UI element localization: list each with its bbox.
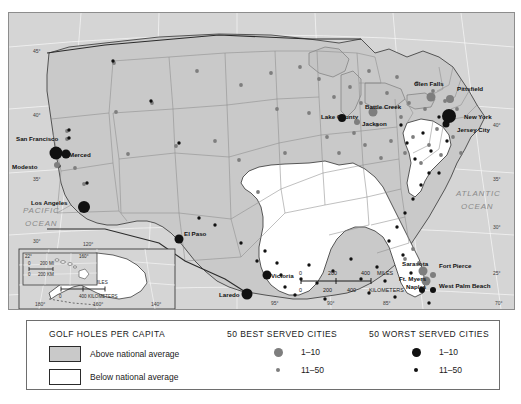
scale-miles-200: 200 <box>328 270 337 276</box>
minor-dot-worst <box>239 241 242 244</box>
city-dot-glen-falls[interactable] <box>427 93 436 102</box>
city-dot-pittsfield[interactable] <box>446 95 454 103</box>
city-label-el-paso: El Paso <box>184 230 207 237</box>
minor-dot-worst <box>401 253 404 256</box>
city-label-jersey-city: Jersey City <box>457 126 491 133</box>
lat-tick-right-0: 40° <box>493 122 501 128</box>
minor-dot-worst <box>283 285 286 288</box>
minor-dot-worst <box>387 239 390 242</box>
minor-dot-best <box>256 190 260 194</box>
legend-shading-column: GOLF HOLES PER CAPITA Above national ave… <box>49 329 179 385</box>
city-label-merced: Merced <box>69 151 91 158</box>
city-dot-modesto[interactable] <box>54 162 60 168</box>
minor-dot-best <box>269 71 273 75</box>
legend-worst-dot-small-cell <box>403 368 429 372</box>
minor-dot-worst <box>149 99 152 102</box>
city-dot-west-palm-beach[interactable] <box>430 287 436 293</box>
legend-worst-item-1-10[interactable]: 1–10 <box>403 347 489 357</box>
hawaii-inset[interactable]: 0 200 MI 0 200 KM 22° 160° <box>23 253 97 285</box>
city-dot-los-angeles[interactable] <box>78 201 90 213</box>
legend-label-above: Above national average <box>90 349 179 359</box>
lon-tick-inset-2: 140° <box>151 301 161 307</box>
minor-dot-worst <box>437 115 440 118</box>
minor-dot-best <box>348 85 352 89</box>
city-dot-san-francisco[interactable] <box>50 147 63 160</box>
minor-dot-best <box>283 151 287 155</box>
lat-tick-right-2: 30° <box>493 224 501 230</box>
city-label-fort-pierce: Fort Pierce <box>439 262 472 269</box>
lon-tick-main-2: 85° <box>383 300 391 306</box>
minor-dot-worst <box>427 301 430 304</box>
legend-label-below: Below national average <box>90 372 178 382</box>
minor-dot-worst <box>177 141 180 144</box>
city-dot-fort-pierce[interactable] <box>430 272 436 278</box>
legend-best-item-11-50[interactable]: 11–50 <box>265 365 337 375</box>
scale-miles-400: 400 <box>361 270 370 276</box>
screenshot-root: San FranciscoMercedModestoLos AngelesEl … <box>0 0 521 404</box>
minor-dot-best <box>455 107 459 111</box>
minor-dot-best <box>237 158 241 162</box>
worst-small-dot-icon <box>414 368 418 372</box>
minor-dot-worst <box>213 223 216 226</box>
minor-dot-worst <box>307 263 310 266</box>
lon-tick-main-1: 90° <box>327 300 335 306</box>
minor-dot-best <box>213 139 217 143</box>
minor-dot-worst <box>359 277 362 280</box>
city-dot-laredo[interactable] <box>242 289 253 300</box>
minor-dot-worst <box>383 279 386 282</box>
hawaii-scale-miles: 200 MI <box>40 261 54 266</box>
scale-km-0: 0 <box>299 287 302 293</box>
city-dot-jersey-city[interactable] <box>443 121 450 128</box>
legend-worst-item-11-50[interactable]: 11–50 <box>403 365 489 375</box>
minor-dot-worst <box>275 261 278 264</box>
minor-dot-best <box>317 77 321 81</box>
minor-dot-best <box>379 156 383 160</box>
minor-dot-best <box>298 65 302 69</box>
minor-dot-best <box>395 75 399 79</box>
minor-dot-best <box>126 152 130 156</box>
minor-dot-best <box>435 127 439 131</box>
minor-dot-worst <box>315 281 318 284</box>
scale-km-unit: KILOMETERS <box>369 287 404 293</box>
legend-item-above[interactable]: Above national average <box>49 346 179 362</box>
city-label-victoria: Victoria <box>271 272 294 279</box>
minor-dot-best <box>337 151 341 155</box>
city-label-laredo: Laredo <box>219 291 240 298</box>
city-label-lake-county: Lake County <box>321 113 359 120</box>
minor-dot-worst <box>67 128 70 131</box>
swatch-above-average <box>49 346 81 362</box>
minor-dot-best <box>419 161 423 165</box>
minor-dot-best <box>174 144 178 148</box>
minor-dot-worst <box>399 123 402 126</box>
map-canvas[interactable]: San FranciscoMercedModestoLos AngelesEl … <box>8 12 515 310</box>
lon-tick-main-0: 95° <box>271 300 279 306</box>
minor-dot-worst <box>421 131 424 134</box>
minor-dot-worst <box>429 149 432 152</box>
legend-best-item-1-10[interactable]: 1–10 <box>265 347 337 357</box>
alaska-scale-km: 400 KILOMETERS <box>79 294 118 299</box>
legend-item-below[interactable]: Below national average <box>49 369 179 385</box>
city-dot-jackson[interactable] <box>354 119 360 125</box>
minor-dot-best <box>389 139 393 143</box>
city-label-pittsfield: Pittsfield <box>457 85 483 92</box>
minor-dot-best <box>427 143 431 147</box>
minor-dot-best <box>114 110 118 114</box>
lat-tick-right-1: 35° <box>493 176 501 182</box>
city-label-new-york: New York <box>464 113 492 120</box>
minor-dot-best <box>439 153 443 157</box>
lat-tick-right-3: 25° <box>493 270 501 276</box>
minor-dot-worst <box>395 225 398 228</box>
minor-dot-worst <box>405 141 408 144</box>
city-label-modesto: Modesto <box>12 163 38 170</box>
city-label-battle-creek: Battle Creek <box>365 103 402 110</box>
hawaii-scale-km: 200 KM <box>38 272 54 277</box>
city-dot-new-york[interactable] <box>442 109 456 123</box>
minor-dot-best <box>73 166 77 170</box>
city-dot-el-paso[interactable] <box>175 235 184 244</box>
scale-km-400: 400 <box>347 287 356 293</box>
legend-worst-label-1-10: 1–10 <box>439 347 458 357</box>
hawaii-corner-lat: 22° <box>25 254 32 259</box>
legend-worst-title: 50 WORST SERVED CITIES <box>369 329 489 339</box>
minor-dot-best <box>431 89 435 93</box>
legend-best-column: 50 BEST SERVED CITIES 1–10 11–50 <box>227 329 337 375</box>
